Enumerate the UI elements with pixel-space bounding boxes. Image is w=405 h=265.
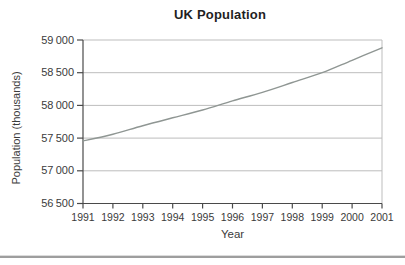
y-tick-label: 57 500 (41, 132, 74, 144)
page-divider-rule (0, 255, 405, 258)
line-plot: 56 50057 00057 50058 00058 50059 0001991… (0, 0, 405, 265)
population-line (83, 48, 382, 141)
x-tick-label: 1996 (221, 211, 245, 223)
population-chart-figure: UK Population Population (thousands) 56 … (0, 0, 405, 265)
x-tick-label: 2000 (340, 211, 364, 223)
x-tick-label: 1997 (251, 211, 275, 223)
x-tick-label: 1992 (101, 211, 125, 223)
x-axis-label: Year (83, 228, 382, 240)
y-tick-label: 57 000 (41, 164, 74, 176)
x-tick-label: 1993 (131, 211, 155, 223)
y-tick-label: 56 500 (41, 197, 74, 209)
x-tick-label: 1994 (161, 211, 185, 223)
y-tick-label: 59 000 (41, 34, 74, 46)
y-tick-label: 58 000 (41, 99, 74, 111)
y-tick-label: 58 500 (41, 66, 74, 78)
x-tick-label: 1991 (71, 211, 95, 223)
x-tick-label: 1999 (311, 211, 335, 223)
x-tick-label: 1995 (191, 211, 215, 223)
x-tick-label: 1998 (281, 211, 305, 223)
x-tick-label: 2001 (370, 211, 394, 223)
